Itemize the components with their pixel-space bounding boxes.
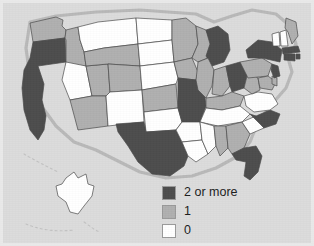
legend-item-1[interactable]: 1: [162, 202, 238, 221]
state-OR[interactable]: [30, 38, 66, 66]
choropleth-figure: 2 or more 1 0: [0, 0, 314, 246]
state-CA[interactable]: [22, 58, 46, 140]
legend-item-0[interactable]: 0: [162, 221, 238, 240]
legend-swatch-2-or-more: [162, 186, 176, 200]
state-NH[interactable]: [280, 30, 288, 46]
state-RI[interactable]: [296, 54, 300, 59]
state-SD[interactable]: [138, 40, 174, 66]
state-AK[interactable]: [56, 172, 94, 214]
state-CT[interactable]: [284, 54, 295, 61]
state-ND[interactable]: [136, 18, 172, 44]
state-MA[interactable]: [282, 46, 300, 54]
legend-swatch-1: [162, 205, 176, 219]
state-VA[interactable]: [244, 92, 278, 112]
state-AZ[interactable]: [70, 96, 108, 130]
state-IA[interactable]: [174, 58, 198, 80]
state-CO[interactable]: [108, 64, 142, 92]
state-AL[interactable]: [214, 126, 228, 156]
state-VT[interactable]: [272, 32, 280, 46]
state-OK[interactable]: [144, 108, 182, 132]
state-MI[interactable]: [206, 26, 230, 66]
legend-label-0: 0: [184, 224, 191, 237]
state-shapes: [22, 17, 300, 232]
legend-label-2-or-more: 2 or more: [184, 186, 238, 199]
us-map: [0, 0, 314, 246]
legend-swatch-0: [162, 224, 176, 238]
state-NM[interactable]: [106, 90, 144, 126]
map-legend: 2 or more 1 0: [162, 183, 238, 240]
legend-item-2-or-more[interactable]: 2 or more: [162, 183, 238, 202]
legend-label-1: 1: [184, 205, 191, 218]
